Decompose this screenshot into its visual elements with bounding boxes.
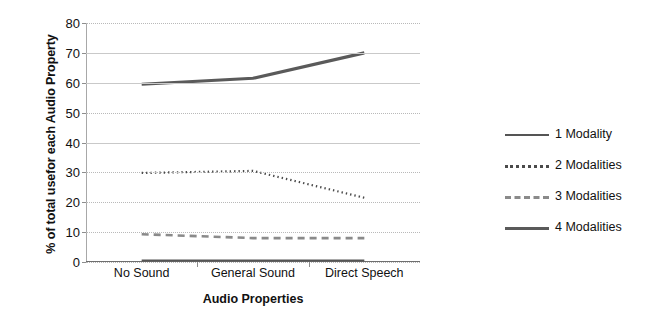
y-tick-label: 60 bbox=[52, 77, 80, 90]
plot-area bbox=[86, 23, 420, 262]
y-tick-mark bbox=[82, 172, 86, 173]
gridline bbox=[86, 113, 420, 114]
y-tick-label: 20 bbox=[52, 196, 80, 209]
y-axis-tick-labels: 80706050403020100 bbox=[52, 14, 80, 264]
series-line-2 bbox=[142, 171, 365, 198]
chart-legend: 1 Modality2 Modalities3 Modalities4 Moda… bbox=[505, 118, 655, 242]
x-tick-label-no-sound: No Sound bbox=[86, 266, 197, 280]
y-tick-label: 0 bbox=[52, 256, 80, 269]
series-line-3 bbox=[142, 234, 365, 238]
gridline bbox=[86, 202, 420, 203]
legend-label: 1 Modality bbox=[555, 127, 612, 141]
gridline bbox=[86, 23, 420, 24]
legend-label: 2 Modalities bbox=[555, 158, 622, 172]
y-tick-mark bbox=[82, 53, 86, 54]
gridline bbox=[86, 172, 420, 173]
y-tick-mark bbox=[82, 262, 86, 263]
x-tick-label-direct-speech: Direct Speech bbox=[309, 266, 420, 280]
y-tick-mark bbox=[82, 113, 86, 114]
legend-item-1[interactable]: 1 Modality bbox=[505, 118, 655, 149]
y-tick-mark bbox=[82, 83, 86, 84]
legend-item-4[interactable]: 4 Modalities bbox=[505, 211, 655, 242]
y-tick-mark bbox=[82, 143, 86, 144]
y-tick-label: 30 bbox=[52, 166, 80, 179]
line-dotted-swatch bbox=[505, 160, 549, 170]
legend-item-2[interactable]: 2 Modalities bbox=[505, 149, 655, 180]
x-axis-title: Audio Properties bbox=[86, 292, 420, 306]
gridline bbox=[86, 83, 420, 84]
line-chart-figure: % of total usefor each Audio Property 80… bbox=[0, 0, 658, 324]
y-tick-label: 40 bbox=[52, 137, 80, 150]
gridline bbox=[86, 53, 420, 54]
gridline bbox=[86, 262, 420, 263]
y-tick-mark bbox=[82, 202, 86, 203]
y-tick-label: 80 bbox=[52, 17, 80, 30]
x-tick-label-general-sound: General Sound bbox=[197, 266, 308, 280]
y-tick-mark bbox=[82, 23, 86, 24]
series-line-4 bbox=[142, 53, 365, 84]
x-axis-tick-labels: No SoundGeneral SoundDirect Speech bbox=[86, 266, 420, 286]
line-solid-thick-swatch bbox=[505, 222, 549, 232]
y-tick-mark bbox=[82, 232, 86, 233]
gridline bbox=[86, 143, 420, 144]
line-solid-swatch bbox=[505, 129, 549, 139]
line-dashed-swatch bbox=[505, 191, 549, 201]
y-tick-label: 50 bbox=[52, 107, 80, 120]
gridline bbox=[86, 232, 420, 233]
y-tick-label: 10 bbox=[52, 226, 80, 239]
legend-item-3[interactable]: 3 Modalities bbox=[505, 180, 655, 211]
y-tick-label: 70 bbox=[52, 47, 80, 60]
legend-label: 4 Modalities bbox=[555, 220, 622, 234]
legend-label: 3 Modalities bbox=[555, 189, 622, 203]
